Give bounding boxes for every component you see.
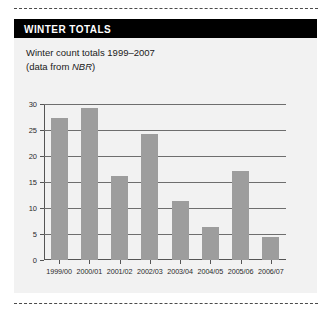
bar <box>141 134 158 260</box>
caption-line-2-suffix: ) <box>92 61 95 72</box>
y-axis-tick-label: 30 <box>29 100 37 109</box>
bar <box>232 171 249 260</box>
x-axis-tick-mark <box>271 260 272 264</box>
bar <box>111 176 128 260</box>
bar <box>202 227 219 260</box>
x-axis-tick-label: 2002/03 <box>137 267 163 276</box>
plot-area <box>44 104 286 260</box>
y-axis-tick-label: 0 <box>33 256 37 265</box>
caption-line-2: (data from NBR) <box>26 60 296 74</box>
bar <box>262 237 279 260</box>
x-axis-tick-label: 2003/04 <box>167 267 193 276</box>
top-dashed-divider <box>14 8 318 9</box>
x-axis-tick-label: 1999/00 <box>46 267 72 276</box>
y-axis-tick-mark <box>40 208 44 209</box>
figure-caption: Winter count totals 1999–2007 (data from… <box>26 46 296 74</box>
y-axis-tick-mark <box>40 104 44 105</box>
y-axis-tick-mark <box>40 130 44 131</box>
x-axis-tick-label: 2004/05 <box>197 267 223 276</box>
y-axis-tick-label: 5 <box>33 230 37 239</box>
figure-panel: WINTER TOTALS Winter count totals 1999–2… <box>0 0 332 315</box>
x-axis-tick-label: 2006/07 <box>258 267 284 276</box>
caption-line-2-prefix: (data from <box>26 61 72 72</box>
bar <box>51 118 68 260</box>
x-axis-tick-mark <box>59 260 60 264</box>
y-axis-tick-mark <box>40 234 44 235</box>
x-axis-tick-mark <box>120 260 121 264</box>
y-axis-tick-label: 15 <box>29 178 37 187</box>
bottom-dashed-divider <box>14 303 318 304</box>
x-axis-tick-mark <box>89 260 90 264</box>
x-axis-tick-label: 2000/01 <box>76 267 102 276</box>
gridline <box>44 104 286 105</box>
caption-line-1: Winter count totals 1999–2007 <box>26 46 296 60</box>
y-axis-tick-label: 10 <box>29 204 37 213</box>
panel-title: WINTER TOTALS <box>24 23 111 34</box>
y-axis-tick-label: 25 <box>29 126 37 135</box>
x-axis-tick-mark <box>210 260 211 264</box>
panel-header-bar: WINTER TOTALS <box>14 19 317 38</box>
caption-source-abbreviation: NBR <box>72 61 92 72</box>
bar <box>172 201 189 260</box>
y-axis-tick-label: 20 <box>29 152 37 161</box>
y-axis-tick-mark <box>40 156 44 157</box>
y-axis-tick-mark <box>40 260 44 261</box>
x-axis-tick-label: 2005/06 <box>228 267 254 276</box>
x-axis-tick-mark <box>241 260 242 264</box>
x-axis-tick-mark <box>180 260 181 264</box>
y-axis-tick-mark <box>40 182 44 183</box>
x-axis-tick-label: 2001/02 <box>107 267 133 276</box>
bar-chart: 0510152025301999/002000/012001/022002/03… <box>22 96 302 286</box>
bar <box>81 108 98 260</box>
x-axis-tick-mark <box>150 260 151 264</box>
